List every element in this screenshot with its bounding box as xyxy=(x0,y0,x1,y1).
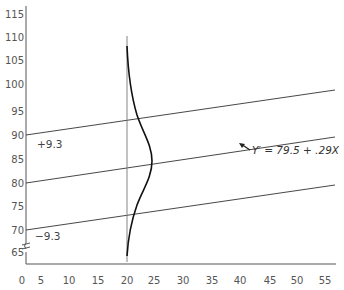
svg-text:25: 25 xyxy=(148,275,161,286)
svg-text:110: 110 xyxy=(5,32,24,43)
svg-text:30: 30 xyxy=(177,275,190,286)
minus-label: −9.3 xyxy=(35,230,61,242)
svg-text:50: 50 xyxy=(291,275,304,286)
svg-text:5: 5 xyxy=(38,275,44,286)
svg-text:100: 100 xyxy=(5,79,24,90)
plus-label: +9.3 xyxy=(37,138,63,150)
svg-text:70: 70 xyxy=(11,225,24,236)
svg-text:105: 105 xyxy=(5,55,24,66)
regression-chart: 115 110 105 100 95 90 85 80 75 70 65 0 5… xyxy=(0,0,344,290)
svg-text:55: 55 xyxy=(319,275,332,286)
svg-text:85: 85 xyxy=(11,154,24,165)
lower-band-line xyxy=(26,185,335,230)
y-tick-labels: 115 110 105 100 95 90 85 80 75 70 65 xyxy=(5,9,24,258)
normal-curve xyxy=(127,46,152,256)
svg-text:80: 80 xyxy=(11,178,24,189)
equation-label: Y′ = 79.5 + .29X xyxy=(252,144,340,156)
svg-text:15: 15 xyxy=(92,275,105,286)
svg-text:45: 45 xyxy=(264,275,277,286)
svg-text:115: 115 xyxy=(5,9,24,20)
svg-text:40: 40 xyxy=(234,275,247,286)
svg-text:90: 90 xyxy=(11,130,24,141)
svg-text:75: 75 xyxy=(11,201,24,212)
svg-text:0: 0 xyxy=(19,275,25,286)
x-tick-labels: 0 5 10 15 20 25 30 35 40 45 50 55 xyxy=(19,275,332,286)
upper-band-line xyxy=(26,90,335,135)
svg-text:10: 10 xyxy=(63,275,76,286)
svg-text:20: 20 xyxy=(121,275,134,286)
svg-text:65: 65 xyxy=(11,247,24,258)
svg-text:95: 95 xyxy=(11,106,24,117)
svg-text:35: 35 xyxy=(206,275,219,286)
arrow-icon xyxy=(239,143,250,150)
